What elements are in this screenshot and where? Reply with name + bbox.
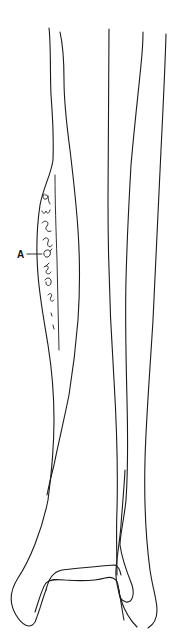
fibula-lateral-border xyxy=(145,34,166,628)
label-a: A xyxy=(17,249,24,260)
fibula-medial-border xyxy=(119,32,143,602)
tibia-medial-border xyxy=(11,28,54,626)
anterior-tibial-line xyxy=(108,29,117,575)
bone-drawing: A xyxy=(0,0,174,641)
cortical-track xyxy=(55,175,59,350)
figure-canvas: A xyxy=(0,0,174,641)
lesion-marks xyxy=(42,194,54,329)
